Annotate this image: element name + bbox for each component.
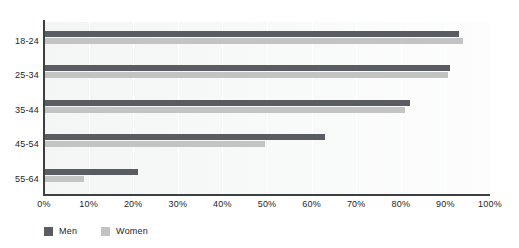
- bar-men-45-54: [44, 134, 325, 140]
- gridline-100%: [490, 22, 491, 194]
- bar-group-45-54: [44, 134, 490, 147]
- x-tick-label-40%: 40%: [213, 199, 232, 209]
- legend-swatch-women: [101, 227, 110, 236]
- y-tick-label-45-54: 45-54: [1, 139, 39, 149]
- bar-group-35-44: [44, 100, 490, 113]
- x-tick-label-60%: 60%: [302, 199, 321, 209]
- x-tick-label-10%: 10%: [79, 199, 98, 209]
- x-tick-label-70%: 70%: [347, 199, 366, 209]
- clipped-title-text: [0, 0, 519, 3]
- x-tick-label-30%: 30%: [168, 199, 187, 209]
- x-tick-label-80%: 80%: [391, 199, 410, 209]
- legend-label-women: Women: [116, 226, 148, 236]
- bar-women-18-24: [44, 38, 463, 44]
- legend-swatch-men: [44, 227, 53, 236]
- x-tick-label-50%: 50%: [258, 199, 277, 209]
- x-tick-label-100%: 100%: [478, 199, 502, 209]
- bar-group-25-34: [44, 65, 490, 78]
- x-axis-line: [44, 194, 490, 196]
- bar-women-35-44: [44, 107, 405, 113]
- legend-item-men[interactable]: Men: [44, 226, 77, 236]
- bar-men-35-44: [44, 100, 410, 106]
- y-axis-line: [43, 20, 45, 196]
- bar-women-45-54: [44, 141, 265, 147]
- chart-legend: MenWomen: [44, 224, 148, 238]
- bar-men-25-34: [44, 65, 450, 71]
- x-tick-label-0%: 0%: [37, 199, 50, 209]
- y-axis-category-labels: 18-2425-3435-4445-5455-64: [0, 22, 39, 194]
- x-tick-label-90%: 90%: [436, 199, 455, 209]
- legend-item-women[interactable]: Women: [101, 226, 148, 236]
- bar-group-18-24: [44, 31, 490, 44]
- chart-figure: 18-2425-3435-4445-5455-64 0%10%20%30%40%…: [0, 0, 519, 248]
- x-tick-label-20%: 20%: [124, 199, 143, 209]
- y-tick-label-18-24: 18-24: [1, 36, 39, 46]
- y-tick-label-55-64: 55-64: [1, 174, 39, 184]
- bar-women-55-64: [44, 176, 84, 182]
- bar-men-18-24: [44, 31, 459, 37]
- legend-label-men: Men: [59, 226, 77, 236]
- x-axis-tick-labels: 0%10%20%30%40%50%60%70%80%90%100%: [0, 199, 519, 213]
- y-tick-label-25-34: 25-34: [1, 70, 39, 80]
- bar-women-25-34: [44, 72, 448, 78]
- y-tick-label-35-44: 35-44: [1, 105, 39, 115]
- plot-area: [44, 22, 490, 194]
- bar-men-55-64: [44, 169, 138, 175]
- bar-group-55-64: [44, 169, 490, 182]
